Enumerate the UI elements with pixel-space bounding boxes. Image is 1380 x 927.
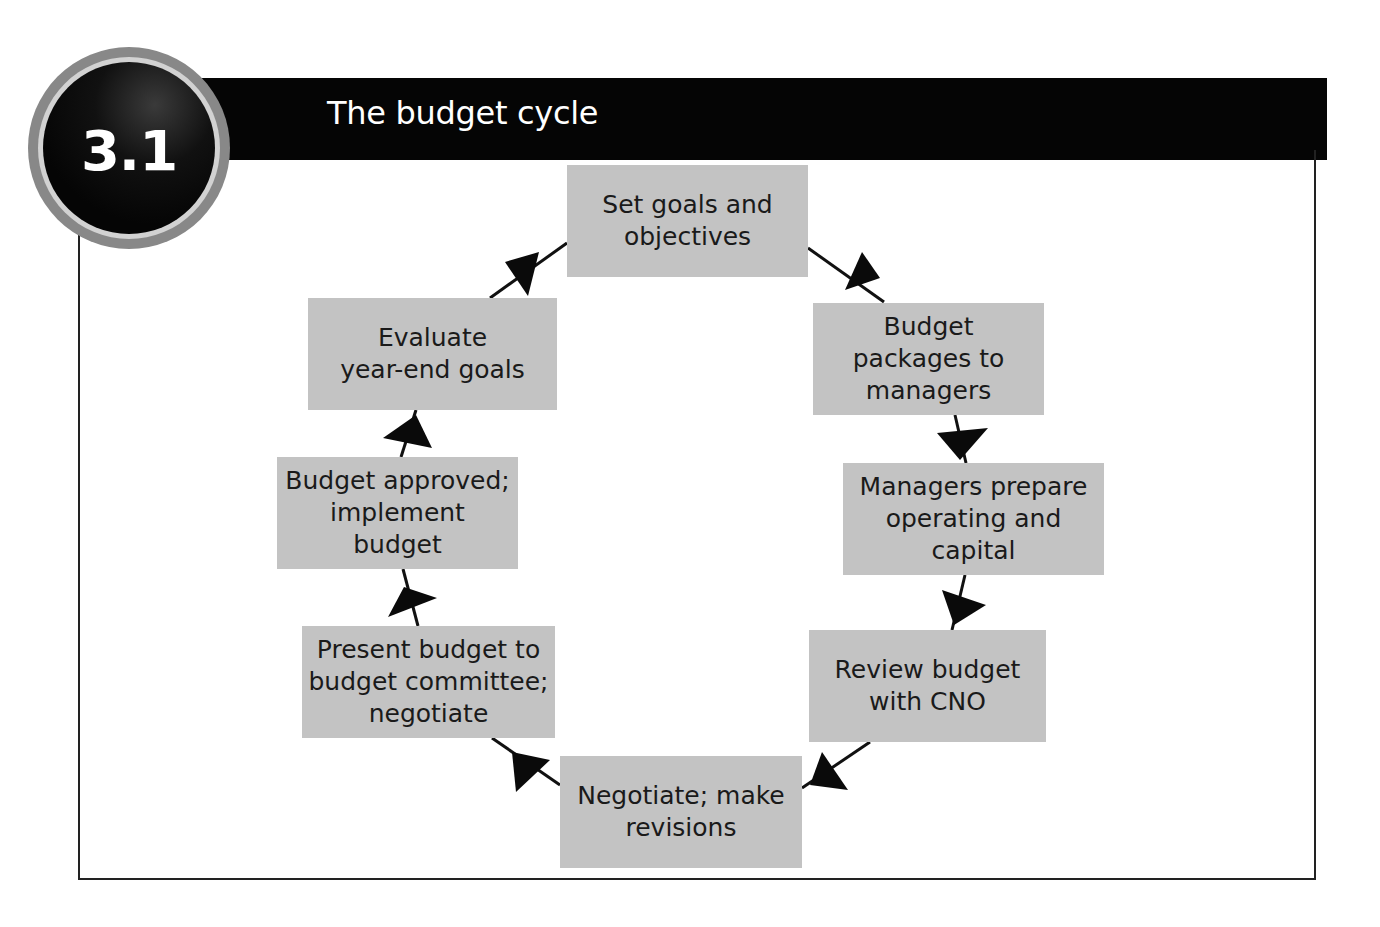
step-evaluate: Evaluate year-end goals bbox=[308, 298, 557, 410]
arrowhead-6-7-icon bbox=[388, 587, 437, 617]
arrowhead-2-3-icon bbox=[937, 428, 988, 460]
step-label: Negotiate; make revisions bbox=[577, 780, 785, 844]
step-budget-approved: Budget approved; implement budget bbox=[277, 457, 518, 569]
step-budget-packages: Budget packages to managers bbox=[813, 303, 1044, 415]
step-label: Budget approved; implement budget bbox=[285, 465, 509, 561]
arrowhead-5-6-icon bbox=[512, 752, 550, 792]
arrowhead-1-2-icon bbox=[845, 252, 880, 290]
step-label: Managers prepare operating and capital bbox=[860, 471, 1088, 567]
step-present-budget: Present budget to budget committee; nego… bbox=[302, 626, 555, 738]
arrowhead-7-8-icon bbox=[383, 415, 432, 448]
step-label: Budget packages to managers bbox=[853, 311, 1005, 407]
step-negotiate: Negotiate; make revisions bbox=[560, 756, 802, 868]
arrowhead-8-1-icon bbox=[505, 252, 539, 296]
step-label: Evaluate year-end goals bbox=[340, 322, 525, 386]
step-review-budget: Review budget with CNO bbox=[809, 630, 1046, 742]
step-label: Set goals and objectives bbox=[602, 189, 772, 253]
step-set-goals: Set goals and objectives bbox=[567, 165, 808, 277]
step-label: Review budget with CNO bbox=[835, 654, 1021, 718]
step-managers-prepare: Managers prepare operating and capital bbox=[843, 463, 1104, 575]
step-label: Present budget to budget committee; nego… bbox=[308, 634, 548, 730]
arrowhead-4-5-icon bbox=[810, 752, 848, 790]
arrowhead-3-4-icon bbox=[942, 590, 986, 625]
